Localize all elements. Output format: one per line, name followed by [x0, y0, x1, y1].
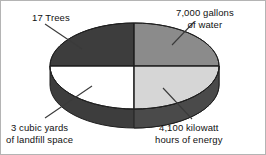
callout-water-line2: of water [176, 19, 234, 31]
callout-energy: 4,100 kilowatt hours of energy [155, 122, 223, 145]
callout-trees: 17 Trees [32, 12, 70, 24]
pie-chart-figure: 17 Trees 7,000 gallons of water 3 cubic … [0, 0, 266, 155]
callout-energy-line1: 4,100 kilowatt [155, 122, 223, 134]
callout-trees-line1: 17 Trees [32, 12, 70, 24]
callout-landfill-line2: of landfill space [6, 134, 73, 146]
callout-water: 7,000 gallons of water [176, 7, 234, 30]
callout-landfill: 3 cubic yards of landfill space [6, 122, 73, 145]
callout-water-line1: 7,000 gallons [176, 7, 234, 19]
callout-energy-line2: hours of energy [155, 134, 223, 146]
callout-landfill-line1: 3 cubic yards [6, 122, 73, 134]
